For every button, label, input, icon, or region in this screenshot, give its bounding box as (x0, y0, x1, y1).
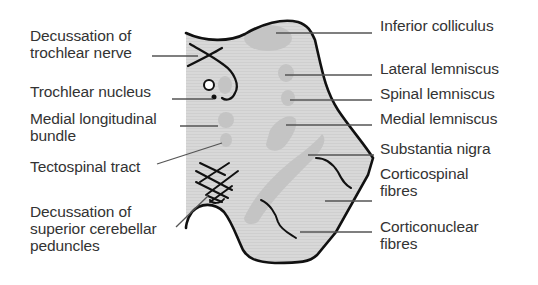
label-tectospinal-tract: Tectospinal tract (30, 158, 140, 175)
trochlear-nucleus-marker (204, 80, 214, 90)
label-decussation-trochlear: Decussation of trochlear nerve (30, 27, 132, 61)
label-trochlear-nucleus: Trochlear nucleus (30, 83, 151, 100)
label-corticonuclear-fibres: Corticonuclear fibres (380, 218, 479, 252)
label-decussation-superior-cerebellar: Decussation of superior cerebellar pedun… (30, 203, 156, 254)
label-medial-lemniscus: Medial lemniscus (380, 110, 497, 127)
mlf-region (218, 112, 234, 128)
label-substantia-nigra: Substantia nigra (380, 140, 490, 157)
tectospinal-region (220, 133, 232, 147)
midbrain-diagram: Decussation of trochlear nerve Trochlear… (0, 0, 538, 285)
label-inferior-colliculus: Inferior colliculus (380, 17, 494, 34)
label-lateral-lemniscus: Lateral lemniscus (380, 60, 499, 77)
label-medial-longitudinal-bundle: Medial longitudinal bundle (30, 110, 157, 144)
label-spinal-lemniscus: Spinal lemniscus (380, 85, 495, 102)
label-corticospinal-fibres: Corticospinal fibres (380, 165, 468, 199)
trochlear-gray-region (218, 76, 232, 94)
lateral-lemniscus-region (278, 64, 294, 82)
inferior-colliculus-region (244, 25, 292, 51)
spinal-lemniscus-region (281, 90, 295, 106)
